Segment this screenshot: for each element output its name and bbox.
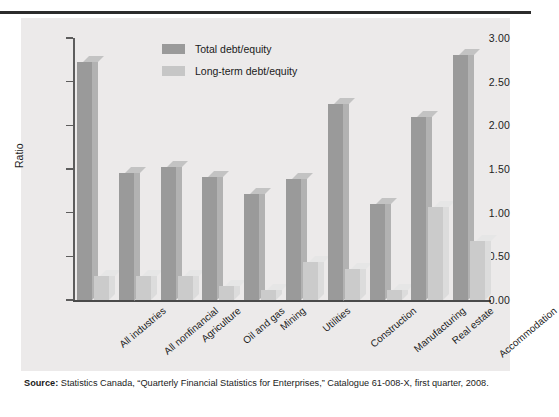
bar-top (334, 98, 355, 104)
chart-legend: Total debt/equity Long-term debt/equity (162, 40, 297, 84)
y-tick-mark (66, 125, 73, 127)
legend-item-long-term-debt-equity: Long-term debt/equity (162, 62, 297, 79)
bar-longterm-7 (387, 290, 402, 300)
bar-side (485, 235, 491, 300)
bar-top (376, 198, 397, 204)
bar-total-3 (202, 177, 217, 300)
bar-face (136, 276, 151, 300)
bar-top (417, 111, 438, 117)
bar-longterm-0 (94, 276, 109, 300)
bar-total-4 (244, 194, 259, 300)
bar-top (83, 56, 104, 62)
bar-top (167, 161, 188, 167)
y-tick-mark (66, 81, 73, 83)
bar-side (259, 188, 265, 300)
y-tick-mark (66, 37, 73, 39)
bar-longterm-2 (178, 276, 193, 300)
bar-longterm-1 (136, 276, 151, 300)
source-note: Source: Statistics Canada, “Quarterly Fi… (24, 378, 510, 390)
bar-total-5 (286, 179, 301, 300)
bar-face (94, 276, 109, 300)
chart-panel: 0.000.501.001.502.002.503.00 Ratio All i… (21, 18, 510, 371)
y-tick-mark (66, 256, 73, 258)
bar-face (470, 241, 485, 300)
bar-face (244, 194, 259, 300)
bar-face (370, 204, 385, 300)
bar-side (443, 201, 449, 300)
y-axis-title: Ratio (13, 143, 25, 168)
source-note-text: Statistics Canada, “Quarterly Financial … (58, 378, 488, 388)
x-label-9: Accommodation (497, 305, 559, 360)
legend-label-longterm: Long-term debt/equity (195, 65, 297, 77)
bar-total-2 (161, 167, 176, 300)
bar-total-1 (119, 173, 134, 301)
bar-face (328, 104, 343, 301)
bar-total-6 (328, 104, 343, 301)
y-tick-mark (66, 299, 73, 301)
bar-face (428, 207, 443, 300)
x-label-6: Construction (368, 305, 418, 350)
y-tick-label: 3.00 (466, 32, 510, 44)
bar-face (161, 167, 176, 300)
legend-swatch-icon-longterm (162, 66, 185, 76)
bar-face (202, 177, 217, 300)
y-tick-mark (66, 168, 73, 170)
x-label-0: All industries (117, 305, 168, 350)
bar-face (261, 290, 276, 300)
bar-longterm-6 (345, 269, 360, 300)
bar-face (178, 276, 193, 300)
x-label-5: Utilities (320, 305, 352, 334)
bar-longterm-5 (303, 262, 318, 300)
bar-face (453, 55, 468, 300)
bar-face (411, 117, 426, 300)
bar-side (92, 56, 98, 300)
legend-item-total-debt-equity: Total debt/equity (162, 40, 297, 57)
bar-face (119, 173, 134, 301)
bar-total-0 (77, 62, 92, 300)
bar-top (459, 49, 480, 55)
bar-top (208, 171, 229, 177)
bar-side (318, 256, 324, 300)
bar-total-7 (370, 204, 385, 300)
bar-side (217, 171, 223, 300)
bar-top (125, 167, 146, 173)
bar-face (286, 179, 301, 300)
bar-longterm-4 (261, 290, 276, 300)
bar-top (292, 173, 313, 179)
y-axis-line (73, 38, 75, 301)
x-axis-line (73, 300, 491, 302)
bar-face (303, 262, 318, 300)
bar-longterm-9 (470, 241, 485, 300)
legend-label-total: Total debt/equity (195, 43, 271, 55)
bar-face (77, 62, 92, 300)
bar-longterm-8 (428, 207, 443, 300)
bar-top (476, 235, 497, 241)
bar-longterm-3 (219, 286, 234, 300)
bar-top (250, 188, 271, 194)
source-note-label: Source: (24, 378, 58, 388)
legend-swatch-icon-total (162, 44, 185, 54)
bar-face (387, 290, 402, 300)
y-tick-mark (66, 212, 73, 214)
figure-top-rule (0, 11, 531, 14)
bar-total-8 (411, 117, 426, 300)
bar-face (345, 269, 360, 300)
bar-total-9 (453, 55, 468, 300)
bar-side (385, 198, 391, 300)
bar-face (219, 286, 234, 300)
